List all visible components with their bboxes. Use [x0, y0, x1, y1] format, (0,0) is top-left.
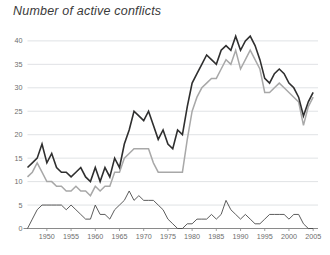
- line-chart-plot: 0510152025303540 19501955196019651970197…: [0, 0, 330, 255]
- y-tick-label-35: 35: [15, 60, 23, 69]
- y-tick-label-25: 25: [15, 107, 23, 116]
- x-tick-label-2000: 2000: [281, 232, 297, 241]
- x-tick-label-1990: 1990: [233, 232, 249, 241]
- chart-figure: Number of active conflicts 0510152025303…: [0, 0, 330, 255]
- y-tick-label-15: 15: [15, 154, 23, 163]
- y-tick-label-40: 40: [15, 36, 23, 45]
- y-tick-label-0: 0: [19, 224, 23, 233]
- x-tick-label-1995: 1995: [257, 232, 273, 241]
- series-line-internationalized-conflicts: [28, 191, 314, 229]
- x-tick-label-1970: 1970: [136, 232, 152, 241]
- series-line-internal-conflicts: [28, 50, 314, 195]
- y-tick-label-10: 10: [15, 177, 23, 186]
- y-tick-label-5: 5: [19, 201, 23, 210]
- x-tick-label-1985: 1985: [208, 232, 224, 241]
- x-tick-label-1965: 1965: [111, 232, 127, 241]
- x-tick-label-1960: 1960: [87, 232, 103, 241]
- y-tick-label-20: 20: [15, 130, 23, 139]
- data-series-group: [28, 36, 314, 228]
- y-axis-tick-labels: 0510152025303540: [15, 36, 23, 233]
- gridlines-group: [28, 41, 319, 205]
- x-tick-label-1975: 1975: [160, 232, 176, 241]
- x-axis-tick-labels: 1950195519601965197019751980198519901995…: [39, 232, 321, 241]
- x-tick-label-1980: 1980: [184, 232, 200, 241]
- x-tick-label-1955: 1955: [63, 232, 79, 241]
- x-tick-label-1950: 1950: [39, 232, 55, 241]
- series-line-total-conflicts: [28, 36, 314, 181]
- y-tick-label-30: 30: [15, 83, 23, 92]
- x-tick-label-2005: 2005: [305, 232, 321, 241]
